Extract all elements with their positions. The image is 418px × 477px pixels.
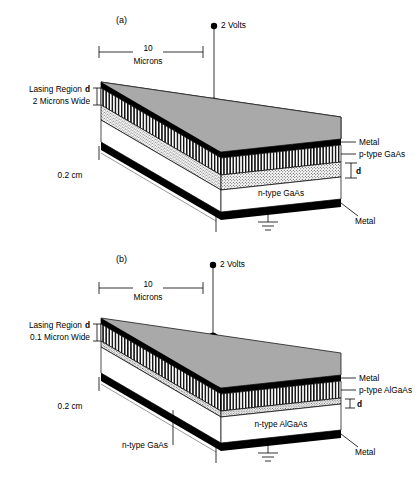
panel-a-width-dimension: 10 Microns	[99, 43, 203, 66]
panel-a-lasing-region-marker: Lasing Region d 2 Microns Wide	[29, 84, 101, 106]
panel-a-label-metal-top: Metal	[359, 137, 379, 147]
panel-b-lasing-region-marker: Lasing Region d 0.1 Micron Wide	[29, 320, 101, 342]
panel-a-length-value: 0.2 cm	[58, 170, 83, 180]
panel-b-thickness-marker: d	[345, 399, 362, 409]
panel-a-lasing-line2: 2 Microns Wide	[33, 96, 91, 106]
panel-a-body-label: n-type GaAs	[258, 188, 304, 198]
panel-b-lasing-symbol: d	[85, 320, 90, 330]
panel-b-lasing-line2: 0.1 Micron Wide	[30, 332, 90, 342]
panel-b-body-label: n-type AlGaAs	[254, 419, 307, 429]
panel-b-width-value: 10	[143, 279, 153, 289]
panel-a-width-units: Microns	[133, 56, 162, 66]
panel-b-length-value: 0.2 cm	[58, 401, 83, 411]
panel-b-label-ptype: p-type AlGaAs	[359, 385, 412, 395]
panel-b-substrate-text: n-type GaAs	[122, 440, 168, 450]
panel-b-label-metal-top: Metal	[359, 373, 379, 383]
panel-b-label-metal-bottom: Metal	[355, 447, 375, 457]
panel-a-lasing-line1: Lasing Region	[29, 84, 82, 94]
panel-a-width-value: 10	[143, 43, 153, 53]
panel-a-voltage-terminal: 2 Volts	[209, 20, 246, 108]
panel-a-tag: (a)	[116, 15, 127, 25]
panel-b-right-labels: Metal p-type AlGaAs	[341, 373, 412, 395]
panel-a-figure: (a) 10 Microns 2 Volts n-type GaAs	[0, 0, 418, 240]
panel-a-label-metal-bottom: Metal	[355, 216, 375, 226]
voltage-source-dot	[210, 262, 216, 268]
panel-b-width-units: Microns	[133, 292, 162, 302]
panel-a-svg: (a) 10 Microns 2 Volts n-type GaAs	[0, 0, 418, 240]
panel-b-thickness-symbol: d	[357, 399, 362, 409]
panel-a-thickness-symbol: d	[356, 166, 361, 176]
panel-b-voltage-label: 2 Volts	[220, 259, 245, 269]
panel-b-figure: (b) 10 Microns 2 Volts n-type AlGaAs Las…	[0, 240, 418, 477]
panel-a-label-ptype: p-type GaAs	[359, 149, 405, 159]
panel-b-lasing-line1: Lasing Region	[29, 320, 82, 330]
voltage-source-dot	[211, 23, 217, 29]
panel-a-lasing-symbol: d	[85, 84, 90, 94]
panel-b-voltage-terminal: 2 Volts	[208, 259, 245, 343]
panel-a-right-labels: Metal p-type GaAs	[341, 137, 405, 159]
panel-a-bottom-metal-label: Metal	[341, 203, 375, 226]
panel-a-voltage-label: 2 Volts	[221, 20, 246, 30]
panel-b-bottom-metal-label: Metal	[341, 434, 375, 457]
panel-b-width-dimension: 10 Microns	[99, 279, 203, 302]
panel-a-thickness-marker: d	[345, 163, 361, 178]
panel-b-tag: (b)	[116, 254, 127, 264]
panel-b-svg: (b) 10 Microns 2 Volts n-type AlGaAs Las…	[0, 240, 418, 477]
